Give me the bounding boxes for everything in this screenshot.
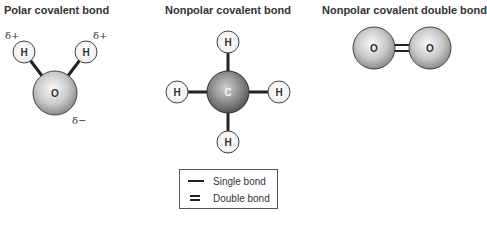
- atom-h-top: H: [224, 37, 231, 48]
- atom-h-right: H: [275, 87, 282, 98]
- legend-double: Double bond: [188, 191, 270, 205]
- legend-single: Single bond: [188, 174, 266, 188]
- charge-o: δ−: [72, 115, 86, 126]
- atom-h2: H: [82, 47, 89, 58]
- legend-single-label: Single bond: [213, 176, 266, 187]
- atom-o-right: O: [426, 43, 434, 54]
- oxygen-molecule: [353, 27, 451, 69]
- charge-h2: δ+: [93, 30, 107, 41]
- legend-double-label: Double bond: [213, 193, 270, 204]
- double-bond-icon: [188, 193, 204, 203]
- atom-h-left: H: [173, 87, 180, 98]
- single-bond-icon: [188, 176, 204, 186]
- atom-c: C: [224, 87, 231, 98]
- atom-o: O: [51, 88, 59, 99]
- charge-h1: δ+: [5, 30, 19, 41]
- legend: Single bond Double bond: [179, 169, 278, 209]
- atom-h-bottom: H: [224, 137, 231, 148]
- atom-h1: H: [20, 47, 27, 58]
- atom-o-left: O: [370, 43, 378, 54]
